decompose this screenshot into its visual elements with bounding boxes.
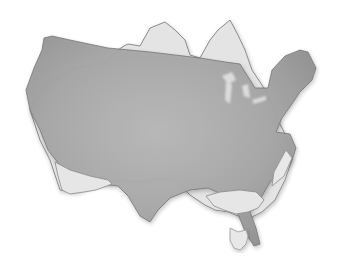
usa-silhouette — [26, 36, 316, 246]
map-comparison-image — [0, 0, 345, 260]
map-illustration — [0, 0, 345, 260]
tasmania-silhouette — [230, 228, 248, 250]
